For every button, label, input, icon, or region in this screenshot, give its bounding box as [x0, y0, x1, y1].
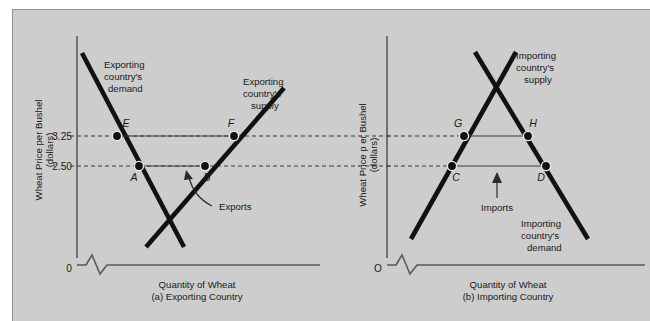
- label-exporting-supply-line1: Exporting: [243, 76, 284, 87]
- exports-arrowhead-icon: [184, 170, 193, 180]
- curve-exporting-supply: [146, 88, 284, 247]
- y-axis-title-importing: Wheat Price p er Bushel (dollars): [357, 103, 379, 206]
- label-importing-supply-line2: country's: [516, 62, 554, 73]
- imports-arrowhead-icon: [492, 172, 502, 183]
- label-importing-demand-line1: Importing: [521, 218, 561, 229]
- y-axis-title-line1-exporting: Wheat Price per Bushel: [33, 100, 44, 201]
- figure-container: E F A B 3.25 2.50 0 Wheat Price per Bush…: [0, 0, 650, 321]
- caption-exporting-line2: (a) Exporting Country: [151, 291, 242, 302]
- panel-exporting-country: E F A B 3.25 2.50 0 Wheat Price per Bush…: [33, 36, 330, 302]
- label-importing-demand-line2: country's: [521, 230, 559, 241]
- point-label-G: G: [454, 117, 462, 129]
- caption-importing-line1: Quantity of Wheat: [470, 279, 547, 290]
- y-axis-title-line2-exporting: (dollars): [44, 133, 55, 168]
- annotation-imports: Imports: [481, 172, 513, 213]
- point-label-B: B: [203, 171, 210, 183]
- point-label-F: F: [228, 117, 235, 129]
- x-axis-importing-with-break: [387, 255, 645, 274]
- label-importing-supply-line1: Importing: [516, 50, 556, 61]
- y-tick-250-exporting: 2.50: [52, 161, 72, 172]
- label-exporting-supply-line3: supply: [251, 100, 279, 111]
- point-label-E: E: [122, 117, 130, 129]
- label-importing-supply-line3: supply: [524, 74, 552, 85]
- x-axis-exporting-with-break: [77, 255, 320, 274]
- annotation-imports-label: Imports: [481, 202, 513, 213]
- point-A: [134, 161, 143, 170]
- point-F: [229, 131, 238, 140]
- origin-label-importing: O: [374, 263, 382, 274]
- label-importing-supply: Importing country's supply: [516, 50, 556, 85]
- point-E: [112, 131, 121, 140]
- point-label-H: H: [529, 117, 537, 129]
- y-axis-title-line2-importing: (dollars): [368, 138, 379, 173]
- point-label-A: A: [129, 171, 137, 183]
- y-tick-325-exporting: 3.25: [52, 131, 72, 142]
- origin-label-exporting: 0: [66, 263, 72, 274]
- label-exporting-supply: Exporting country's supply: [243, 76, 284, 111]
- panel-importing-country: G H C D O Wheat Price p er Bushel (dolla…: [330, 36, 645, 302]
- annotation-exports-label: Exports: [219, 201, 252, 212]
- label-exporting-demand-line3: demand: [108, 83, 143, 94]
- point-C: [447, 161, 456, 170]
- point-D: [541, 161, 550, 170]
- caption-importing-line2: (b) Importing Country: [463, 291, 554, 302]
- point-G: [459, 131, 468, 140]
- point-label-C: C: [452, 171, 460, 183]
- label-exporting-demand-line2: country's: [104, 71, 142, 82]
- point-H: [523, 131, 532, 140]
- point-label-D: D: [537, 171, 545, 183]
- point-B: [200, 161, 209, 170]
- y-axis-title-exporting: Wheat Price per Bushel (dollars): [33, 100, 55, 201]
- label-exporting-demand: Exporting country's demand: [104, 59, 145, 94]
- label-exporting-supply-line2: country's: [243, 88, 281, 99]
- label-exporting-demand-line1: Exporting: [104, 59, 145, 70]
- annotation-exports: Exports: [184, 170, 252, 212]
- y-axis-title-line1-importing: Wheat Price p er Bushel: [357, 103, 368, 206]
- label-importing-demand-line3: demand: [527, 242, 562, 253]
- economics-chart: E F A B 3.25 2.50 0 Wheat Price per Bush…: [0, 0, 650, 321]
- caption-exporting-line1: Quantity of Wheat: [159, 279, 236, 290]
- label-importing-demand: Importing country's demand: [521, 218, 562, 253]
